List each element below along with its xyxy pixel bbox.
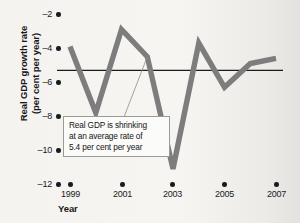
callout-line-2: at an average rate of: [69, 131, 165, 142]
callout-leader-line: [124, 57, 147, 117]
callout-line-3: 5.4 per cent per year: [69, 142, 165, 153]
average-rate-callout: Real GDP is shrinking at an average rate…: [63, 116, 170, 157]
gdp-growth-chart: Real GDP growth rate (per cent per year)…: [0, 0, 300, 223]
callout-line-1: Real GDP is shrinking: [69, 120, 165, 131]
plot-area: [0, 0, 300, 223]
